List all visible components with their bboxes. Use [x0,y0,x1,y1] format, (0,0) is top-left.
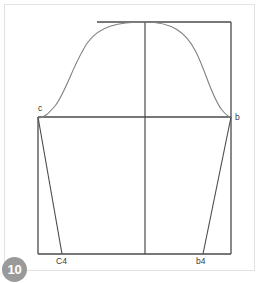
label-b: b [235,112,240,122]
figure-number-badge: 10 [2,257,27,282]
diagram-page: c b C4 b4 10 [0,0,261,283]
label-c: c [38,103,43,113]
sleeve-cap-curve [38,22,231,118]
label-b4: b4 [196,256,206,266]
left-underarm-seam-line [38,117,62,254]
sleeve-pattern-drawing: c b C4 b4 [0,0,261,283]
label-C4: C4 [56,256,67,266]
right-underarm-seam-line [203,117,231,254]
